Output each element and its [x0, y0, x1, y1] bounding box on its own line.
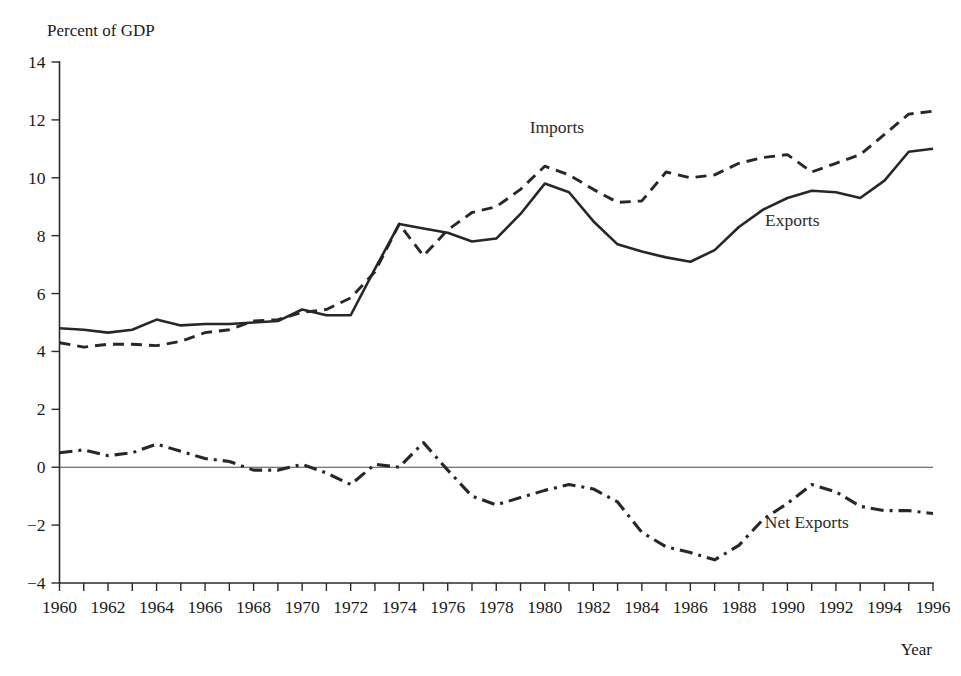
y-axis-tick-labels: 14121086420−2−4: [27, 52, 46, 593]
x-tick-label-1994: 1994: [867, 597, 902, 617]
series-line-net-exports: [60, 443, 934, 560]
x-tick-label-1964: 1964: [139, 597, 174, 617]
x-axis-tick-labels: 1960196219641966196819701972197419761978…: [42, 597, 951, 617]
y-tick-label-6: 2: [37, 399, 46, 419]
axis-spine: [60, 62, 934, 583]
line-chart: 14121086420−2−4 196019621964196619681970…: [0, 0, 961, 676]
x-tick-label-1990: 1990: [770, 597, 805, 617]
y-tick-label-5: 4: [37, 341, 46, 361]
y-tick-label-1: 12: [28, 110, 46, 130]
data-series-group: [60, 111, 934, 560]
x-tick-label-1986: 1986: [673, 597, 708, 617]
x-tick-label-1984: 1984: [624, 597, 659, 617]
y-tick-label-3: 8: [37, 226, 46, 246]
x-tick-label-1996: 1996: [916, 597, 951, 617]
x-tick-label-1988: 1988: [721, 597, 756, 617]
x-tick-label-1982: 1982: [576, 597, 611, 617]
y-tick-label-2: 10: [28, 168, 46, 188]
x-tick-label-1962: 1962: [91, 597, 126, 617]
x-tick-label-1960: 1960: [42, 597, 77, 617]
x-tick-label-1968: 1968: [236, 597, 271, 617]
x-tick-label-1978: 1978: [479, 597, 514, 617]
chart-container: 14121086420−2−4 196019621964196619681970…: [0, 0, 961, 676]
axes-group: [60, 62, 934, 583]
x-tick-label-1974: 1974: [382, 597, 417, 617]
y-tick-label-4: 6: [37, 284, 46, 304]
x-tick-label-1970: 1970: [285, 597, 320, 617]
x-tick-label-1992: 1992: [818, 597, 853, 617]
x-tick-label-1966: 1966: [188, 597, 223, 617]
series-label-exports: Exports: [765, 210, 820, 230]
series-label-net-exports: Net Exports: [765, 512, 849, 532]
x-tick-label-1976: 1976: [430, 597, 465, 617]
series-line-exports: [60, 149, 934, 333]
y-tick-label-8: −2: [27, 515, 46, 535]
y-tick-label-7: 0: [37, 457, 46, 477]
x-axis-title: Year: [901, 640, 933, 659]
x-tick-label-1972: 1972: [333, 597, 368, 617]
x-tick-label-1980: 1980: [527, 597, 562, 617]
y-axis-title: Percent of GDP: [47, 21, 155, 40]
y-tick-label-0: 14: [28, 52, 46, 72]
series-label-imports: Imports: [530, 117, 585, 137]
y-tick-label-9: −4: [27, 573, 46, 593]
